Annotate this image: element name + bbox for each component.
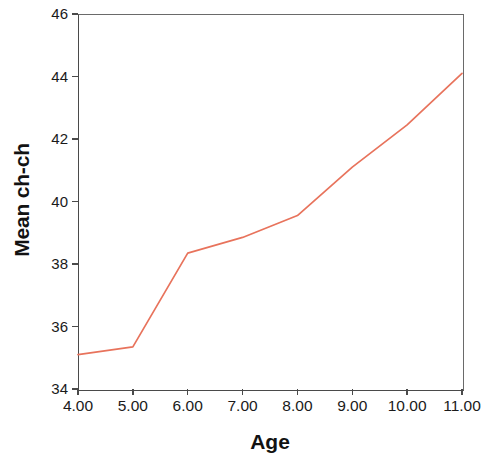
y-tick-label: 42 (14, 131, 68, 146)
x-axis-title: Age (78, 430, 462, 454)
y-tick-label: 36 (14, 319, 68, 334)
x-tick-mark (242, 389, 244, 395)
y-tick-label: 44 (14, 69, 68, 84)
y-tick-label: 34 (14, 381, 68, 396)
plot-canvas (78, 14, 462, 389)
y-tick-label: 40 (14, 194, 68, 209)
line-chart: Mean ch-ch 34363840424446 4.005.006.007.… (0, 0, 486, 464)
y-tick-label: 46 (14, 6, 68, 21)
y-axis-title-label: Mean ch-ch (10, 143, 34, 257)
x-tick-mark (77, 389, 79, 395)
x-tick-label: 11.00 (427, 398, 486, 414)
y-tick-label: 38 (14, 256, 68, 271)
x-tick-mark (352, 389, 354, 395)
x-tick-mark (406, 389, 408, 395)
y-axis-title: Mean ch-ch (0, 0, 44, 400)
x-tick-mark (297, 389, 299, 395)
x-tick-mark (132, 389, 134, 395)
x-tick-mark (187, 389, 189, 395)
data-series-line (78, 73, 462, 354)
x-tick-mark (461, 389, 463, 395)
y-tick-label-group: 34363840424446 (0, 0, 68, 464)
